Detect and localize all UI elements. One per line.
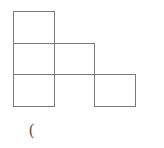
caption-text: ( (29, 122, 34, 138)
square-r1c1 (13, 11, 55, 44)
square-r2c2 (54, 43, 95, 75)
square-r3c1 (13, 74, 55, 107)
square-r3c2 (54, 74, 95, 107)
square-r2c1 (13, 43, 55, 75)
square-r3c3 (94, 74, 136, 107)
